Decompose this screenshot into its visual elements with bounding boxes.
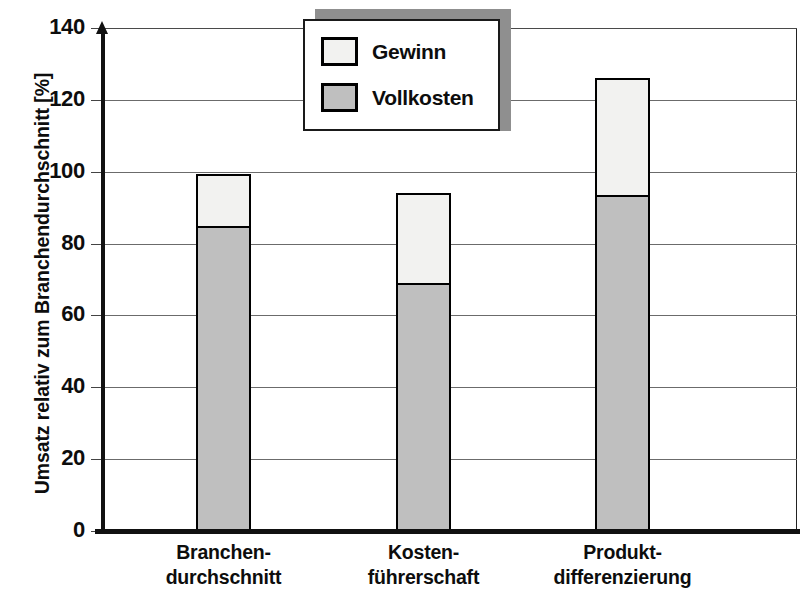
legend-item-gewinn: Gewinn <box>321 37 446 66</box>
y-tick-label-0: 0 <box>0 519 85 541</box>
x-axis-label-line2: durchschnitt <box>114 565 334 590</box>
y-tick-label-wrap-20: 20 <box>0 447 85 471</box>
x-axis-label-line1: Produkt- <box>513 540 733 565</box>
y-tick-label-wrap-0: 0 <box>0 519 85 543</box>
x-axis-label-2: Produkt-differenzierung <box>513 540 733 590</box>
y-tick-label-wrap-120: 120 <box>0 88 85 112</box>
bar-group <box>396 193 451 531</box>
legend-swatch-vollkosten <box>321 83 358 112</box>
y-tick-label-100: 100 <box>0 160 85 182</box>
legend-label-vollkosten: Vollkosten <box>372 86 474 110</box>
y-axis-arrow-icon <box>96 21 108 34</box>
y-tick-label-140: 140 <box>0 16 85 38</box>
legend-label-gewinn: Gewinn <box>372 40 446 64</box>
x-axis-label-1: Kosten-führerschaft <box>314 540 534 590</box>
y-tick-label-wrap-60: 60 <box>0 303 85 327</box>
y-tick-label-120: 120 <box>0 88 85 110</box>
bar-segment-gewinn <box>396 193 451 285</box>
y-axis-spine <box>101 30 105 533</box>
y-tick-label-20: 20 <box>0 447 85 469</box>
bar-segment-vollkosten <box>196 226 251 531</box>
legend-swatch-gewinn <box>321 37 358 66</box>
y-tick-label-60: 60 <box>0 303 85 325</box>
x-axis-spine <box>95 529 800 534</box>
x-axis-label-line1: Branchen- <box>114 540 334 565</box>
bar-segment-vollkosten <box>595 195 650 531</box>
legend: Gewinn Vollkosten <box>303 19 500 131</box>
x-axis-label-line2: führerschaft <box>314 565 534 590</box>
bar-segment-vollkosten <box>396 283 451 531</box>
y-tick-label-80: 80 <box>0 232 85 254</box>
x-axis-label-line2: differenzierung <box>513 565 733 590</box>
x-axis-label-line1: Kosten- <box>314 540 534 565</box>
y-tick-label-40: 40 <box>0 375 85 397</box>
y-tick-label-wrap-140: 140 <box>0 16 85 40</box>
x-axis-label-0: Branchen-durchschnitt <box>114 540 334 590</box>
bar-group <box>196 174 251 531</box>
y-tick-label-wrap-100: 100 <box>0 160 85 184</box>
bar-segment-gewinn <box>196 174 251 229</box>
bar-segment-gewinn <box>595 78 650 197</box>
legend-item-vollkosten: Vollkosten <box>321 83 474 112</box>
y-tick-label-wrap-40: 40 <box>0 375 85 399</box>
bar-group <box>595 78 650 531</box>
y-tick-label-wrap-80: 80 <box>0 232 85 256</box>
chart-figure: Umsatz relativ zum Branchendurchschnitt … <box>0 0 810 610</box>
